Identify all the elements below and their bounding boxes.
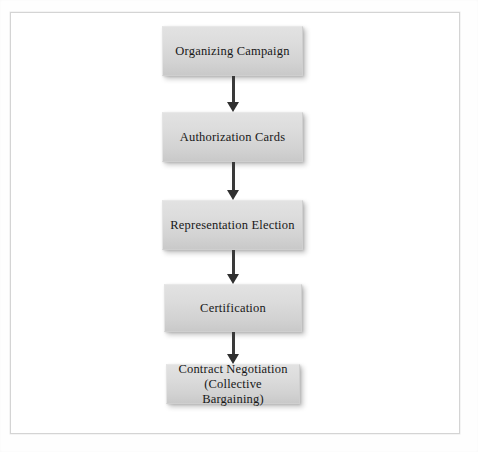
- flow-node-organizing-campaign[interactable]: Organizing Campaign: [162, 26, 303, 76]
- arrow-shaft: [232, 162, 235, 191]
- flow-node-label: Authorization Cards: [174, 130, 292, 145]
- arrow-head-icon: [227, 190, 239, 200]
- flow-node-representation-election[interactable]: Representation Election: [162, 200, 303, 250]
- diagram-page: Organizing Campaign Authorization Cards …: [0, 0, 478, 452]
- flow-arrow-2: [223, 162, 243, 200]
- flow-node-authorization-cards[interactable]: Authorization Cards: [162, 112, 303, 162]
- flow-arrow-1: [223, 76, 243, 112]
- arrow-shaft: [232, 332, 235, 355]
- flow-node-certification[interactable]: Certification: [164, 284, 302, 332]
- arrow-head-icon: [227, 274, 239, 284]
- flow-node-label: Organizing Campaign: [169, 44, 295, 59]
- arrow-shaft: [232, 76, 235, 103]
- flow-node-label: Certification: [194, 301, 272, 316]
- flow-arrow-4: [223, 332, 243, 364]
- flow-arrow-3: [223, 250, 243, 284]
- arrow-shaft: [232, 250, 235, 275]
- flow-node-label: Representation Election: [164, 218, 300, 233]
- flow-node-contract-negotiation[interactable]: Contract Negotiation (Collective Bargain…: [166, 364, 300, 404]
- arrow-head-icon: [227, 102, 239, 112]
- flow-node-label: Contract Negotiation (Collective Bargain…: [167, 362, 299, 407]
- flowchart: Organizing Campaign Authorization Cards …: [0, 0, 478, 452]
